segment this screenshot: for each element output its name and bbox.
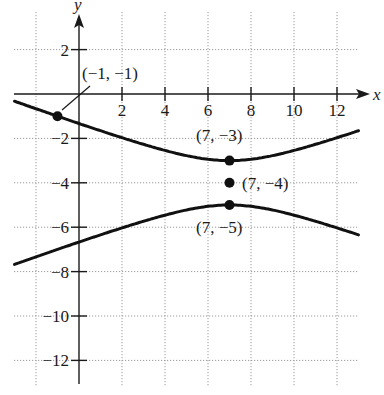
label-center: (7, −4) (242, 174, 288, 193)
tick-marks: 246810122−2−4−6−8−10−12 (42, 41, 345, 371)
label-vertex-top: (7, −3) (196, 126, 242, 145)
x-tick-label: 4 (161, 101, 170, 120)
x-tick-label: 12 (329, 101, 346, 120)
point-vertex-top (225, 156, 235, 166)
y-tick-label: 2 (61, 41, 70, 60)
y-tick-label: −10 (42, 307, 69, 326)
point-neg1-neg1 (53, 111, 63, 121)
y-axis-label: y (72, 0, 82, 14)
x-tick-label: 6 (204, 101, 213, 120)
label-neg1-neg1: (−1, −1) (82, 64, 138, 83)
x-tick-label: 2 (118, 101, 127, 120)
x-axis-label: x (372, 85, 381, 104)
y-tick-label: −12 (42, 351, 69, 370)
label-vertex-bottom: (7, −5) (196, 218, 242, 237)
point-label-leader (62, 86, 90, 110)
x-tick-label: 8 (247, 101, 256, 120)
x-tick-label: 10 (286, 101, 303, 120)
grid-lines (14, 12, 358, 386)
point-vertex-bottom (225, 200, 235, 210)
axes: x y (14, 0, 381, 384)
y-tick-label: −6 (51, 218, 69, 237)
point-center (225, 178, 235, 188)
y-tick-label: −8 (51, 263, 69, 282)
y-tick-label: −2 (51, 129, 69, 148)
y-tick-label: −4 (51, 174, 70, 193)
hyperbola-chart: x y 246810122−2−4−6−8−10−12 (−1, −1) (7,… (0, 0, 384, 395)
